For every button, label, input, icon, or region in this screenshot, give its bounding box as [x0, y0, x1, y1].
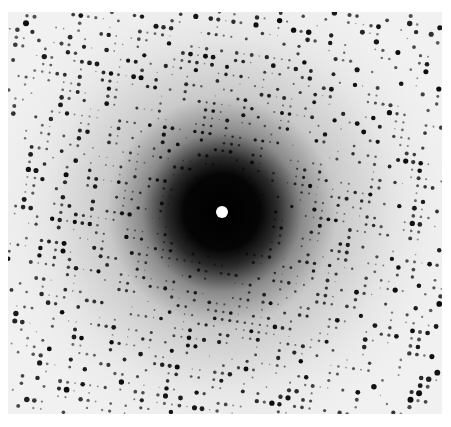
- diffraction-pattern: [0, 0, 451, 427]
- beam-stop: [216, 206, 228, 218]
